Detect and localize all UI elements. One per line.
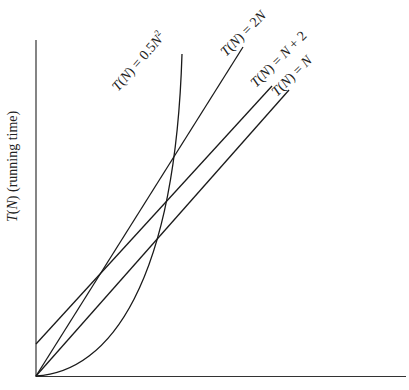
growth-rate-chart: T(N) (running time) T(N) = 0.5N2 T(N) = … [0, 0, 409, 390]
series-n [36, 90, 289, 376]
series-quadratic [36, 54, 182, 376]
label-2n: T(N) = 2N [218, 7, 271, 60]
series-2n [36, 47, 243, 376]
y-axis-label: T(N) (running time) [5, 110, 21, 222]
label-quadratic: T(N) = 0.5N2 [107, 28, 168, 95]
series-n-plus-2 [36, 86, 272, 344]
